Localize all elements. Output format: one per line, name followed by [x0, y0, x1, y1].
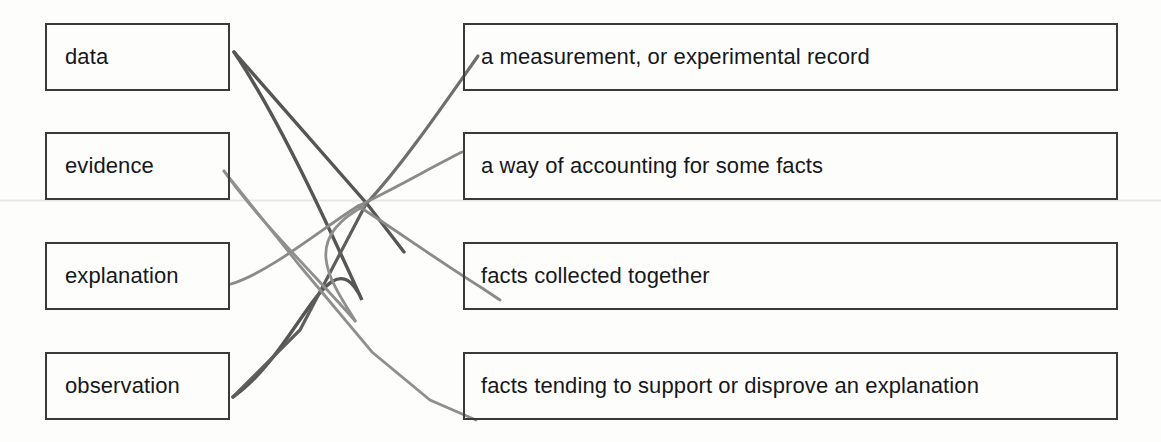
- matching-exercise-diagram: data evidence explanation observation a …: [0, 0, 1161, 442]
- definition-box-tending[interactable]: facts tending to support or disprove an …: [463, 352, 1118, 420]
- term-box-explanation[interactable]: explanation: [45, 242, 230, 310]
- term-label-observation: observation: [65, 375, 180, 397]
- definition-box-accounting[interactable]: a way of accounting for some facts: [463, 132, 1118, 200]
- term-box-data[interactable]: data: [45, 23, 230, 91]
- term-label-explanation: explanation: [65, 265, 179, 287]
- term-label-evidence: evidence: [65, 155, 154, 177]
- connector-to-measurement: [366, 56, 478, 204]
- connector-evidence-to-tending: [224, 171, 364, 322]
- definition-box-measurement[interactable]: a measurement, or experimental record: [463, 23, 1118, 91]
- definition-box-collected[interactable]: facts collected together: [463, 242, 1118, 310]
- definition-label-collected: facts collected together: [481, 265, 710, 287]
- connector-evidence-descend: [224, 171, 476, 420]
- definition-label-accounting: a way of accounting for some facts: [481, 155, 823, 177]
- connector-data-to-observation: [233, 52, 362, 397]
- connector-data-stroke-a: [234, 52, 404, 252]
- term-box-observation[interactable]: observation: [45, 352, 230, 420]
- connector-observation-stroke: [233, 204, 366, 397]
- definition-label-tending: facts tending to support or disprove an …: [481, 375, 979, 397]
- term-label-data: data: [65, 46, 108, 68]
- connector-explanation-to-accounting: [231, 152, 462, 284]
- definition-label-measurement: a measurement, or experimental record: [481, 46, 870, 68]
- term-box-evidence[interactable]: evidence: [45, 132, 230, 200]
